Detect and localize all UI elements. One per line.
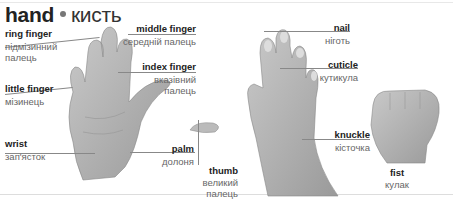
fist-image [365, 85, 445, 165]
label-ring-finger: ring finger підмізинний палець [5, 28, 57, 63]
fist-uk: кулак [372, 179, 422, 190]
title-en: hand [5, 3, 54, 26]
ring-finger-uk2: палець [5, 52, 57, 63]
knuckle-uk: кісточка [310, 142, 370, 153]
thumb-uk2: палець [190, 188, 238, 199]
bullet-icon [60, 11, 66, 17]
ring-finger-en: ring finger [5, 28, 57, 39]
label-wrist: wrist зап'ясток [5, 138, 45, 162]
index-finger-en: index finger [118, 61, 196, 72]
label-knuckle: knuckle кісточка [310, 129, 370, 153]
fist-en: fist [372, 167, 422, 178]
label-cuticle: cuticle кутикула [300, 59, 358, 83]
back-hand-image [228, 28, 348, 198]
index-finger-uk1: вказівний [118, 74, 196, 85]
label-middle-finger: middle finger середній палець [118, 23, 196, 47]
thumb-image [185, 118, 225, 138]
thumb-uk1: великий [190, 177, 238, 188]
nail-en: nail [300, 22, 350, 33]
wrist-en: wrist [5, 138, 45, 149]
cuticle-uk: кутикула [300, 72, 358, 83]
little-finger-uk: мізинець [5, 96, 54, 107]
ring-finger-uk1: підмізинний [5, 41, 57, 52]
label-palm: palm долоня [140, 143, 194, 167]
wrist-uk: зап'ясток [5, 151, 45, 162]
palm-en: palm [140, 143, 194, 154]
index-finger-uk2: палець [118, 85, 196, 96]
thumb-en: thumb [190, 165, 238, 176]
nail-uk: ніготь [300, 35, 350, 46]
cuticle-en: cuticle [300, 59, 358, 70]
label-fist: fist кулак [372, 167, 422, 190]
label-thumb: thumb великий палець [190, 165, 238, 199]
label-nail: nail ніготь [300, 22, 350, 46]
palm-uk: долоня [140, 156, 194, 167]
knuckle-en: knuckle [310, 129, 370, 140]
label-index-finger: index finger вказівний палець [118, 61, 196, 96]
little-finger-en: little finger [5, 83, 54, 94]
thumb-leader [198, 120, 199, 165]
middle-finger-en: middle finger [118, 23, 196, 34]
label-little-finger: little finger мізинець [5, 83, 54, 107]
middle-finger-uk: середній палець [118, 36, 196, 47]
